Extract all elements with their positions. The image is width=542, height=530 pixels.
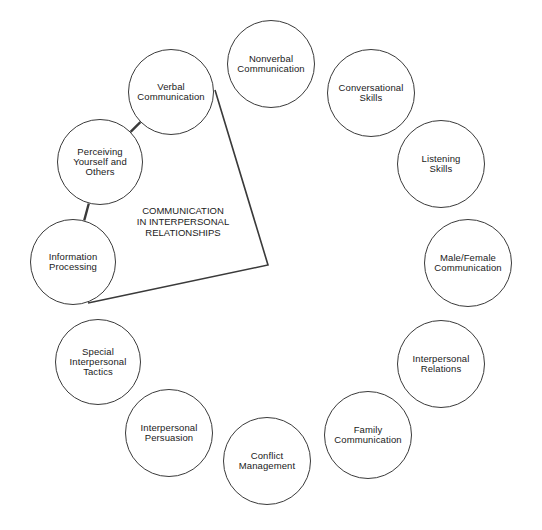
node-label: Information Processing (49, 252, 98, 272)
node-verbal[interactable]: Verbal Communication (128, 49, 214, 135)
node-label: Conversational Skills (339, 83, 404, 103)
node-label: Verbal Communication (137, 82, 204, 102)
node-label: Nonverbal Communication (237, 54, 304, 74)
node-label: Perceiving Yourself and Others (73, 147, 127, 177)
node-label: Conflict Management (239, 451, 295, 471)
node-nonverbal[interactable]: Nonverbal Communication (227, 20, 315, 108)
node-label: Interpersonal Relations (413, 354, 470, 374)
node-perceiving[interactable]: Perceiving Yourself and Others (57, 119, 143, 205)
node-interpersonal-relations[interactable]: Interpersonal Relations (397, 320, 485, 408)
node-label: Listening Skills (422, 154, 461, 174)
connector-perceiving-information (84, 204, 89, 221)
node-information-processing[interactable]: Information Processing (30, 219, 116, 305)
node-family[interactable]: Family Communication (324, 391, 412, 479)
node-conversational[interactable]: Conversational Skills (327, 49, 415, 137)
node-label: Special Interpersonal Tactics (70, 347, 127, 377)
node-special-tactics[interactable]: Special Interpersonal Tactics (55, 319, 141, 405)
center-title: COMMUNICATION IN INTERPERSONAL RELATIONS… (113, 205, 253, 238)
node-persuasion[interactable]: Interpersonal Persuasion (125, 389, 213, 477)
node-male-female[interactable]: Male/Female Communication (424, 219, 512, 307)
node-label: Family Communication (334, 425, 401, 445)
connector-verbal-perceiving (131, 122, 141, 132)
node-conflict[interactable]: Conflict Management (223, 417, 311, 505)
node-label: Interpersonal Persuasion (141, 423, 198, 443)
node-label: Male/Female Communication (434, 253, 501, 273)
communication-diagram: COMMUNICATION IN INTERPERSONAL RELATIONS… (0, 0, 542, 530)
node-listening[interactable]: Listening Skills (397, 120, 485, 208)
